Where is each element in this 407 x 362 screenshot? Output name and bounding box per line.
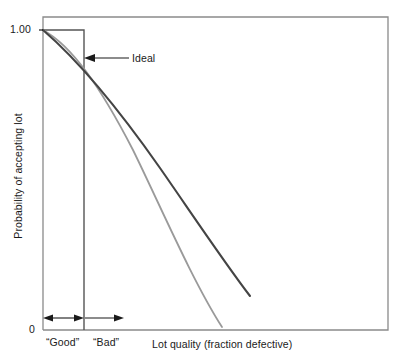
plot-frame xyxy=(43,17,388,330)
y-tick-label-top: 1.00 xyxy=(10,23,31,35)
bad-region-label: “Bad” xyxy=(93,336,119,348)
oc-curve-figure: Probability of accepting lot Lot quality… xyxy=(0,0,407,362)
y-axis-label: Probability of accepting lot xyxy=(12,91,24,261)
ideal-annotation-label: Ideal xyxy=(132,52,155,64)
good-region-arrow xyxy=(43,314,84,321)
x-axis-label: Lot quality (fraction defective) xyxy=(152,338,292,350)
good-region-label: “Good” xyxy=(46,336,79,348)
ideal-step-curve xyxy=(43,30,84,330)
y-tick-label-bottom: 0 xyxy=(29,323,35,335)
bad-region-arrow xyxy=(85,314,124,321)
chart-canvas xyxy=(0,0,407,362)
oc-curve-light xyxy=(43,30,222,327)
ideal-annotation-arrow xyxy=(84,54,129,62)
oc-curve-dark xyxy=(43,30,250,296)
